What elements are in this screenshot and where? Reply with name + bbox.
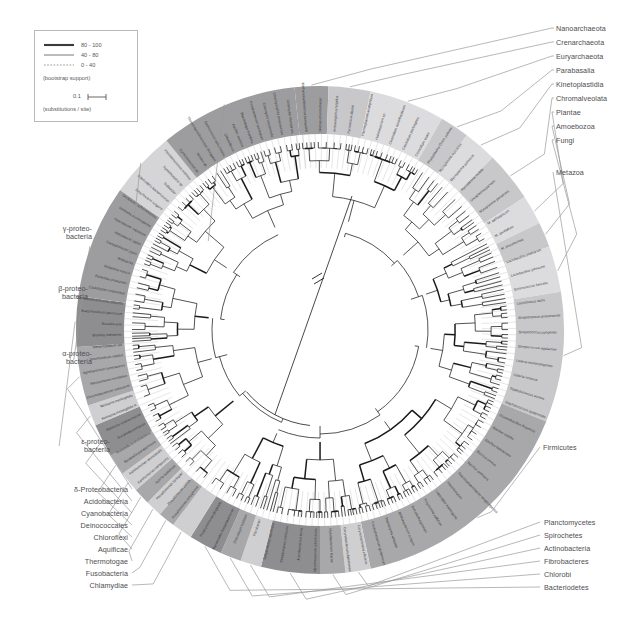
branch-radial (169, 250, 177, 254)
branch-radial (292, 144, 293, 150)
group-label-planctomycetes: Planctomycetes (544, 518, 595, 527)
branch-radial (438, 468, 442, 473)
taxon-label: Streptococcus pyogenes (518, 330, 557, 334)
legend-scale-value: 0.1 (73, 93, 81, 99)
tip-spoke (312, 492, 313, 526)
branch-radial (149, 288, 158, 290)
tip-spoke (137, 388, 169, 400)
branch-radial (264, 151, 266, 157)
branch-radial (456, 211, 465, 219)
branch-radial (346, 144, 347, 150)
branch-radial (296, 144, 297, 150)
branch-radial (501, 306, 507, 307)
tip-spoke (266, 142, 275, 175)
branch-radial (139, 345, 155, 346)
branch-radial (461, 260, 480, 268)
branch-radial (480, 257, 493, 262)
tip-spoke (481, 309, 515, 313)
branch-radial (150, 264, 161, 268)
branch-radial (420, 220, 429, 229)
leader-euryarchaeota (408, 56, 554, 101)
branch-radial (142, 269, 148, 271)
branch-radial (501, 313, 507, 314)
branch-radial (178, 450, 183, 454)
group-label-fungi: Fungi (556, 136, 574, 145)
branch-radial (214, 260, 226, 268)
branch-radial (329, 148, 330, 161)
branch-radial (482, 412, 487, 415)
branch-radial (298, 511, 299, 517)
branch-radial (453, 363, 470, 367)
branch-radial (169, 426, 177, 432)
leader-chlamydiae (132, 532, 181, 585)
branch-arc (320, 415, 380, 434)
branch-radial (449, 221, 458, 228)
tip-spoke (124, 336, 158, 337)
branch-radial (134, 305, 140, 306)
branch-radial (153, 356, 174, 360)
branch-radial (169, 218, 174, 222)
taxon-label: Brucella suis (102, 322, 122, 327)
tip-spoke (278, 139, 285, 172)
branch-radial (273, 433, 277, 442)
branch-arc (212, 318, 216, 357)
gamma-proteo-band (166, 87, 299, 177)
branch-radial (281, 487, 286, 507)
branch-radial (461, 296, 482, 300)
tip-spoke (482, 339, 516, 341)
branch-radial (405, 222, 411, 230)
branch-radial (459, 448, 464, 452)
branch-radial (251, 495, 255, 504)
branch-radial (406, 172, 410, 179)
branch-radial (397, 495, 400, 500)
branch-radial (160, 409, 172, 415)
branch-radial (196, 467, 200, 472)
branch-radial (379, 502, 381, 508)
branch-radial (467, 437, 472, 441)
branch-arc (233, 235, 278, 273)
leader-nanoarchaeota (311, 28, 554, 85)
branch-radial (482, 294, 504, 298)
group-label-delta-proteobacteria: δ-Proteobacteria (8, 485, 128, 494)
branch-radial (453, 258, 470, 266)
tip-spoke (306, 492, 308, 526)
branch-radial (420, 482, 423, 487)
branch-radial (178, 207, 183, 211)
branch-radial (333, 459, 335, 480)
branch-radial (248, 498, 250, 504)
branch-radial (486, 341, 501, 342)
branch-radial (366, 503, 367, 506)
branch-radial (134, 355, 140, 356)
branch-radial (404, 202, 414, 216)
branch-radial (250, 162, 256, 177)
gamma-proteo-line2: bacteria (20, 233, 92, 241)
branch-radial (261, 176, 270, 198)
branch-radial (186, 457, 190, 461)
branch-radial (132, 340, 151, 341)
branch-radial (315, 480, 316, 500)
branch-radial (466, 239, 477, 246)
tip-spoke (337, 135, 341, 169)
beta-proteo-line2: bacteria (16, 293, 88, 301)
branch-radial (294, 510, 295, 516)
branch-radial (403, 492, 406, 497)
tip-spoke (315, 134, 316, 168)
branch-radial (485, 406, 490, 408)
branch-radial (497, 346, 508, 347)
branch-radial (149, 251, 159, 256)
tip-spoke (468, 395, 499, 409)
branch-radial (423, 206, 431, 215)
branch-radial (241, 482, 247, 495)
branch-radial (353, 509, 354, 515)
tip-spoke (141, 251, 172, 265)
branch-radial (434, 215, 445, 225)
branch-radial (430, 475, 434, 480)
branch-radial (429, 249, 439, 256)
branch-radial (391, 498, 393, 504)
branch-radial (430, 348, 442, 350)
branch-radial (383, 456, 389, 468)
branch-radial (443, 451, 450, 458)
branch-radial (441, 300, 450, 302)
branch-radial (482, 299, 505, 303)
branch-radial (156, 418, 161, 421)
